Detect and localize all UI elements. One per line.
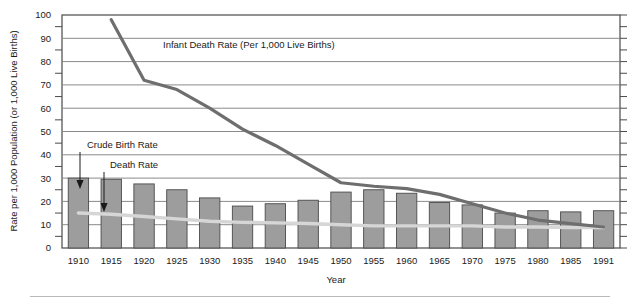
x-axis-title: Year [326, 274, 345, 285]
x-tick-label-1920: 1920 [133, 255, 154, 266]
x-tick-label-1930: 1930 [199, 255, 220, 266]
infant-death-rate-chart-figure: 0102030405060708090100 Rate per 1,000 Po… [0, 0, 640, 305]
x-tick-label-1925: 1925 [166, 255, 187, 266]
y-axis-tick-labels: 0102030405060708090100 [35, 9, 51, 253]
bar-1991 [593, 211, 613, 248]
bar-1975 [495, 213, 515, 248]
bar-1940 [265, 204, 285, 248]
x-tick-label-1970: 1970 [462, 255, 483, 266]
bar-1935 [232, 206, 252, 248]
annotation-infant-death-rate: Infant Death Rate (Per 1,000 Live Births… [163, 39, 335, 50]
bar-1950 [331, 192, 351, 248]
y-tick-label-100: 100 [35, 9, 51, 20]
x-tick-label-1965: 1965 [429, 255, 450, 266]
x-tick-label-1945: 1945 [298, 255, 319, 266]
x-tick-label-1991: 1991 [593, 255, 614, 266]
x-tick-label-1950: 1950 [330, 255, 351, 266]
x-tick-label-1955: 1955 [363, 255, 384, 266]
y-tick-label-40: 40 [40, 149, 51, 160]
bar-1960 [396, 193, 416, 248]
annotation-label-infant-death-rate: Infant Death Rate (Per 1,000 Live Births… [163, 39, 335, 50]
x-tick-label-1985: 1985 [560, 255, 581, 266]
y-tick-label-50: 50 [40, 126, 51, 137]
bar-1980 [528, 211, 548, 248]
chart-svg: 0102030405060708090100 Rate per 1,000 Po… [0, 0, 640, 305]
y-axis-minor-ticks [55, 27, 62, 237]
y-tick-label-30: 30 [40, 173, 51, 184]
y-tick-label-70: 70 [40, 79, 51, 90]
x-tick-label-1915: 1915 [101, 255, 122, 266]
y-tick-label-0: 0 [46, 242, 51, 253]
bar-1955 [364, 190, 384, 248]
annotation-label-crude-birth-rate: Crude Birth Rate [87, 139, 158, 150]
y-tick-label-90: 90 [40, 33, 51, 44]
y-tick-label-20: 20 [40, 196, 51, 207]
y-tick-label-80: 80 [40, 56, 51, 67]
x-tick-label-1975: 1975 [495, 255, 516, 266]
bar-1985 [561, 212, 581, 248]
y-axis-minor-ticks-right [620, 15, 627, 248]
x-tick-label-1935: 1935 [232, 255, 253, 266]
annotation-label-death-rate: Death Rate [110, 159, 158, 170]
x-tick-label-1960: 1960 [396, 255, 417, 266]
x-tick-label-1910: 1910 [68, 255, 89, 266]
y-tick-label-60: 60 [40, 103, 51, 114]
x-tick-label-1940: 1940 [265, 255, 286, 266]
x-axis-tick-labels: 1910191519201925193019351940194519501955… [68, 255, 614, 266]
y-tick-label-10: 10 [40, 219, 51, 230]
x-tick-label-1980: 1980 [527, 255, 548, 266]
y-axis-title: Rate per 1,000 Population (or 1,000 Live… [8, 30, 19, 231]
footer-rule [30, 296, 610, 297]
